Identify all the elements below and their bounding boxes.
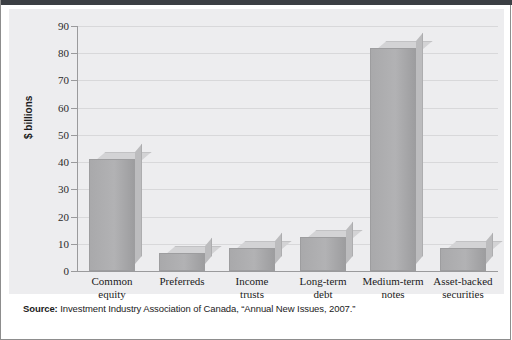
x-axis-tick-label-line: Preferreds [147,275,217,288]
x-axis-tick-label: Preferreds [147,275,217,288]
source-note: Source: Investment Industry Association … [23,303,355,314]
bar [370,48,416,271]
x-axis-tick-label-line: Medium-term [358,275,428,288]
y-axis-tick-label: 80 [45,48,69,58]
x-axis-tick-label-line: securities [428,288,498,301]
y-axis-tick-label: 50 [45,130,69,140]
y-axis-tick-label: 90 [45,21,69,31]
y-axis-tick-label: 40 [45,157,69,167]
x-axis-tick-label: Medium-termnotes [358,275,428,300]
x-axis-tick-label-line: trusts [217,288,287,301]
bar-side-face [205,238,212,264]
x-axis-tick-label-line: notes [358,288,428,301]
bar [300,237,346,271]
bar-front-face [370,48,416,271]
x-axis-tick-label-line: Long-term [288,275,358,288]
x-axis-tick-label-line: Common [77,275,147,288]
bar-front-face [440,248,486,271]
x-axis-tick-label-line: Asset-backed [428,275,498,288]
bar [440,248,486,271]
x-axis-tick-label-line: Income [217,275,287,288]
y-axis-tick-label: 30 [45,184,69,194]
y-axis-tick-label: 60 [45,103,69,113]
bar-front-face [229,248,275,271]
gridline [77,53,498,54]
gridline [77,135,498,136]
bar [159,253,205,271]
y-axis-line [77,26,78,272]
y-axis-title: $ billions [23,96,34,139]
bar-side-face [486,233,493,264]
bar-side-face [416,33,423,264]
x-axis-tick-label: Commonequity [77,275,147,300]
x-axis-line [77,271,498,272]
bar-side-face [346,222,353,264]
chart-plot-frame: $ billions 0102030405060708090 Commonequ… [9,9,504,294]
x-axis-tick-label-line: equity [77,288,147,301]
y-axis-tick-label: 0 [45,266,69,276]
gridline [77,26,498,27]
y-axis-tick-label: 70 [45,75,69,85]
x-axis-tick-label: Asset-backedsecurities [428,275,498,300]
bar [89,159,135,271]
gridline [77,80,498,81]
bar-front-face [159,253,205,271]
x-axis-tick-label-line: debt [288,288,358,301]
x-axis-tick-label: Incometrusts [217,275,287,300]
gridline [77,108,498,109]
source-label: Source: [23,303,58,314]
bar-front-face [300,237,346,271]
y-axis-tick-label: 20 [45,212,69,222]
x-axis-tick-label: Long-termdebt [288,275,358,300]
bar-side-face [275,233,282,264]
bar-side-face [135,144,142,264]
y-axis-tick-label: 10 [45,239,69,249]
bar-front-face [89,159,135,271]
figure-top-rule [1,0,512,5]
bar [229,248,275,271]
source-text: Investment Industry Association of Canad… [58,303,356,314]
